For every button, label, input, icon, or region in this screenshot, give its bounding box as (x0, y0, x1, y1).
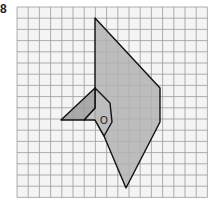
grid-diagram: O (0, 0, 212, 201)
center-label-o: O (100, 115, 108, 126)
